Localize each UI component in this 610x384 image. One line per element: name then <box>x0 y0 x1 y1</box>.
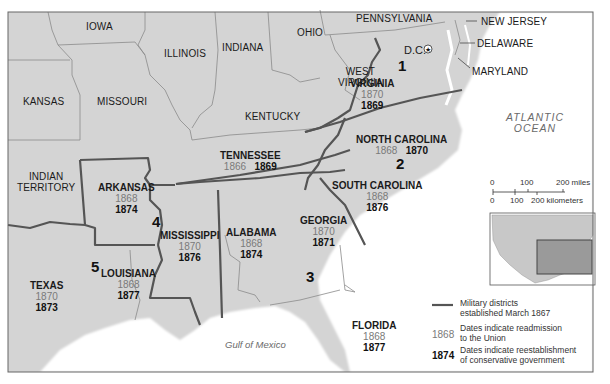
state-label-illinois: ILLINOIS <box>164 48 206 59</box>
state-label-new-jersey: NEW JERSEY <box>481 16 547 27</box>
reestablishment-date: 1877 <box>352 342 396 353</box>
readmission-date: 1868 <box>352 331 396 342</box>
state-label-south-carolina: SOUTH CAROLINA 1868 1876 <box>332 180 423 213</box>
reestablishment-date: 1876 <box>160 252 219 263</box>
dc-label: D.C. <box>404 45 426 56</box>
reestablishment-date: 1871 <box>300 237 347 248</box>
state-label-north-carolina: NORTH CAROLINA 1868 1870 <box>356 134 447 156</box>
state-label-pennsylvania: PENNSYLVANIA <box>356 13 432 24</box>
state-label-kentucky: KENTUCKY <box>245 111 300 122</box>
military-district-2: 2 <box>396 158 404 169</box>
state-label-arkansas: ARKANSAS 1868 1874 <box>98 182 155 215</box>
state-label-mississippi: MISSISSIPPI 1870 1876 <box>160 230 219 263</box>
scale-km-100: 100 <box>510 196 523 205</box>
scale-km-200: 200 kilometers <box>531 196 583 205</box>
state-label-indiana: INDIANA <box>222 42 263 53</box>
readmission-date: 1868 <box>332 191 423 202</box>
state-label-louisiana: LOUISIANA 1868 1877 <box>101 268 156 301</box>
readmission-date: 1870 <box>300 226 347 237</box>
reestablishment-date: 1869 <box>254 161 276 172</box>
readmission-date: 1870 <box>350 89 394 100</box>
atlantic-ocean-label: ATLANTIC OCEAN <box>506 112 564 134</box>
state-label-iowa: IOWA <box>86 21 113 32</box>
legend-reestablishment-text: Dates indicate reestablishment of conser… <box>460 346 576 365</box>
readmission-date: 1866 <box>224 161 246 172</box>
state-label-florida: FLORIDA 1868 1877 <box>352 320 396 353</box>
state-label-tennessee: TENNESSEE 1866 1869 <box>220 150 281 172</box>
military-district-4: 4 <box>152 216 160 227</box>
military-district-3: 3 <box>306 271 314 282</box>
reestablishment-date: 1873 <box>30 302 63 313</box>
reestablishment-date: 1869 <box>350 100 394 111</box>
state-label-georgia: GEORGIA 1870 1871 <box>300 215 347 248</box>
readmission-date: 1868 <box>98 193 155 204</box>
legend-readmission-text: Dates indicate readmission to the Union <box>460 324 562 343</box>
gulf-of-mexico-label: Gulf of Mexico <box>225 339 286 350</box>
scale-miles-200: 200 miles <box>556 178 590 187</box>
state-label-maryland: MARYLAND <box>472 66 528 77</box>
readmission-date: 1870 <box>30 291 63 302</box>
readmission-date: 1870 <box>160 241 219 252</box>
inset-highlight-region <box>537 240 592 274</box>
reestablishment-date: 1870 <box>406 145 428 156</box>
readmission-date: 1868 <box>226 238 277 249</box>
scale-miles-100: 100 <box>520 178 533 187</box>
state-label-delaware: DELAWARE <box>477 38 533 49</box>
state-label-alabama: ALABAMA 1868 1874 <box>226 227 277 260</box>
reestablishment-date: 1876 <box>332 202 423 213</box>
scale-miles-0: 0 <box>490 178 494 187</box>
reestablishment-date: 1874 <box>98 204 155 215</box>
state-label-ohio: OHIO <box>297 27 323 38</box>
legend-reestablishment-key: 1874 <box>432 350 454 361</box>
legend-districts-text: Military districts established March 186… <box>460 299 550 318</box>
reestablishment-date: 1877 <box>101 290 156 301</box>
state-label-indian-territory: INDIAN TERRITORY <box>17 171 75 193</box>
state-label-texas: TEXAS 1870 1873 <box>30 280 63 313</box>
state-label-missouri: MISSOURI <box>97 96 147 107</box>
reestablishment-date: 1874 <box>226 249 277 260</box>
state-label-virginia: VIRGINIA 1870 1869 <box>350 78 394 111</box>
military-district-1: 1 <box>398 60 406 71</box>
military-district-5: 5 <box>91 261 99 272</box>
readmission-date: 1868 <box>101 279 156 290</box>
readmission-date: 1868 <box>375 145 397 156</box>
scale-km-0: 0 <box>490 196 494 205</box>
legend-readmission-key: 1868 <box>432 329 454 340</box>
state-label-kansas: KANSAS <box>23 96 64 107</box>
